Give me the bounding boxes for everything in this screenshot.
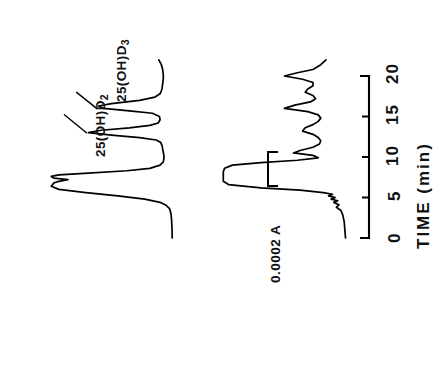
axis-title-time: TIME (min): [414, 142, 434, 249]
peak-label-25ohd3-subscript: 3: [119, 39, 131, 45]
axis-tick-label-10: 10: [383, 145, 403, 166]
axis-tick-label-0: 0: [385, 233, 405, 243]
peak-label-25ohd2-subscript: 2: [98, 94, 110, 100]
chromatogram-svg: [0, 0, 436, 365]
peak-label-25ohd3-text: 25(OH)D: [114, 45, 129, 102]
axis-tick-label-15: 15: [383, 104, 403, 125]
peak-label-25ohd2: 25(OH)D2: [93, 94, 108, 157]
axis-tick-label-5: 5: [385, 191, 405, 201]
axis-tick-label-20: 20: [383, 63, 403, 84]
chromatogram-figure: 20 15 10 5 0 TIME (min) 0.0002 A 25(OH)D…: [0, 0, 436, 365]
peak-label-25ohd3: 25(OH)D3: [114, 39, 129, 102]
scale-bar-label: 0.0002 A: [268, 225, 283, 283]
figure-background: [0, 0, 436, 365]
peak-label-25ohd2-text: 25(OH)D: [93, 100, 108, 157]
